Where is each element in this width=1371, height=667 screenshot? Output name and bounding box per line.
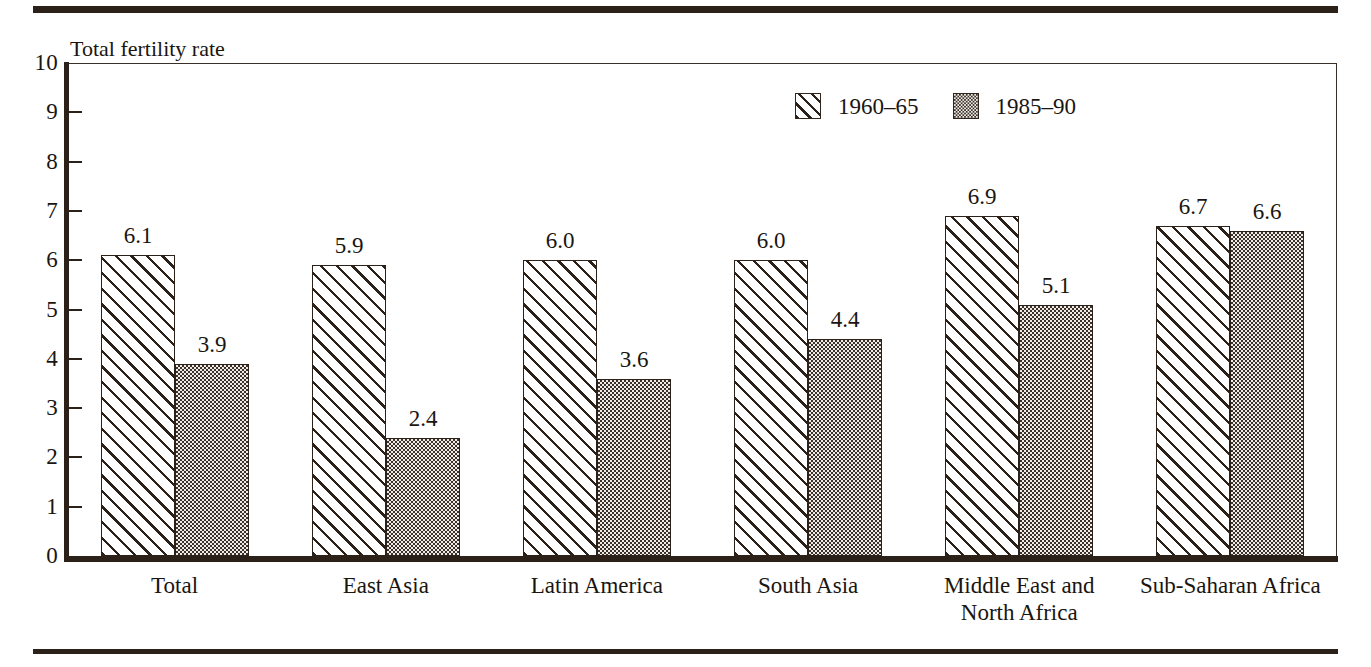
bar-value-label: 5.1 bbox=[1019, 274, 1093, 297]
bar-series-2 bbox=[1230, 231, 1304, 556]
bar-series-2 bbox=[808, 339, 882, 556]
bar-series-1 bbox=[101, 255, 175, 556]
bar-value-label: 6.7 bbox=[1156, 195, 1230, 218]
bar-series-2 bbox=[1019, 305, 1093, 556]
bar-series-1 bbox=[945, 216, 1019, 556]
bar-value-label: 2.4 bbox=[386, 407, 460, 430]
bar-series-2 bbox=[597, 379, 671, 556]
bar-value-label: 6.6 bbox=[1230, 200, 1304, 223]
bars-layer: 6.13.95.92.46.03.66.04.46.95.16.76.6 bbox=[0, 0, 1371, 667]
bar-series-1 bbox=[1156, 226, 1230, 556]
bar-series-1 bbox=[312, 265, 386, 556]
bar-value-label: 3.6 bbox=[597, 348, 671, 371]
bar-value-label: 5.9 bbox=[312, 234, 386, 257]
bar-value-label: 6.0 bbox=[734, 229, 808, 252]
bar-series-2 bbox=[386, 438, 460, 556]
bar-value-label: 4.4 bbox=[808, 308, 882, 331]
bar-value-label: 6.0 bbox=[523, 229, 597, 252]
x-axis-category-label: Sub-Saharan Africa bbox=[1100, 572, 1360, 599]
bar-series-2 bbox=[175, 364, 249, 556]
bar-value-label: 6.1 bbox=[101, 224, 175, 247]
bar-series-1 bbox=[523, 260, 597, 556]
bar-value-label: 6.9 bbox=[945, 185, 1019, 208]
bar-value-label: 3.9 bbox=[175, 333, 249, 356]
bar-series-1 bbox=[734, 260, 808, 556]
